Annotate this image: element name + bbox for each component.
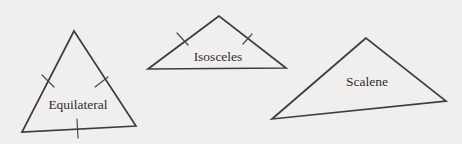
triangle-types-diagram: Equilateral Isosceles Scalene: [0, 0, 462, 144]
tick-mark: [95, 77, 108, 87]
equilateral-label: Equilateral: [48, 97, 107, 112]
tick-mark: [77, 119, 78, 138]
scalene-label: Scalene: [346, 74, 388, 89]
isosceles-label: Isosceles: [194, 49, 243, 64]
isosceles-triangle: Isosceles: [148, 16, 286, 69]
diagram-svg: Equilateral Isosceles Scalene: [0, 0, 462, 144]
equilateral-triangle: Equilateral: [22, 31, 136, 138]
equilateral-triangle-shape: [22, 31, 136, 132]
tick-mark: [42, 75, 54, 87]
scalene-triangle: Scalene: [272, 38, 446, 119]
